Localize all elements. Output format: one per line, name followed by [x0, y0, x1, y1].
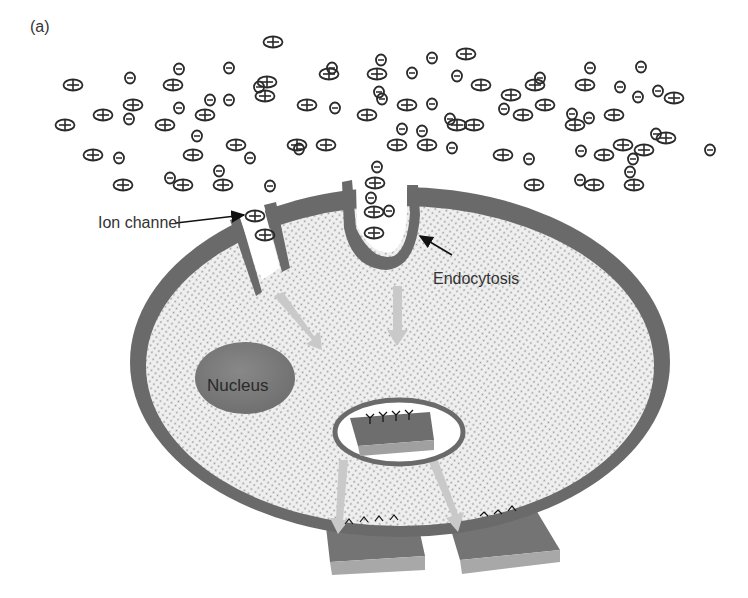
- endocytosis-label: Endocytosis: [433, 270, 519, 288]
- negative-ion: [584, 113, 594, 124]
- nucleus-label: Nucleus: [207, 376, 268, 396]
- positive-ion: [635, 145, 654, 156]
- negative-ion: [124, 114, 134, 125]
- negative-ion: [625, 167, 635, 178]
- negative-ion: [524, 154, 534, 165]
- negative-ion: [417, 126, 427, 137]
- negative-ion: [452, 71, 462, 82]
- positive-ion: [366, 178, 385, 189]
- negative-ion: [615, 82, 625, 93]
- positive-ion: [457, 49, 476, 60]
- negative-ion: [372, 162, 382, 173]
- negative-ion: [174, 64, 184, 75]
- negative-ion: [427, 99, 437, 110]
- positive-ion: [174, 180, 193, 191]
- negative-ion: [427, 53, 437, 64]
- negative-ion: [576, 146, 586, 157]
- negative-ion: [224, 63, 234, 74]
- ion-channel-label: Ion channel: [98, 214, 181, 232]
- negative-ion: [653, 86, 663, 97]
- negative-ion: [636, 62, 646, 73]
- negative-ion: [585, 63, 595, 74]
- positive-ion: [368, 69, 387, 80]
- negative-ion: [245, 153, 255, 164]
- negative-ion: [224, 95, 234, 106]
- negative-ion: [114, 153, 124, 164]
- cell-uptake-diagram: (a) Ion channel Endocytosis Nucleus: [0, 0, 748, 598]
- positive-ion: [502, 90, 521, 101]
- negative-ion: [567, 109, 577, 120]
- negative-ion: [407, 68, 417, 79]
- negative-ion: [205, 95, 215, 106]
- vesicle: [335, 400, 463, 464]
- negative-ion: [628, 154, 638, 165]
- positive-ion: [514, 110, 533, 121]
- positive-ion: [317, 140, 336, 151]
- positive-ion: [114, 180, 133, 191]
- positive-ion: [494, 150, 513, 161]
- negative-ion: [575, 175, 585, 186]
- diagram-canvas: [0, 0, 748, 598]
- positive-ion: [585, 180, 604, 191]
- positive-ion: [398, 100, 417, 111]
- positive-ion: [184, 150, 203, 161]
- positive-ion: [358, 110, 377, 121]
- positive-ion: [64, 80, 83, 91]
- negative-ion: [174, 103, 184, 114]
- positive-ion: [576, 80, 595, 91]
- positive-ion: [614, 140, 633, 151]
- positive-ion: [525, 180, 544, 191]
- positive-ion: [56, 120, 75, 131]
- positive-ion: [227, 140, 246, 151]
- positive-ion: [388, 140, 407, 151]
- positive-ion: [595, 150, 614, 161]
- positive-ion: [156, 120, 175, 131]
- positive-ion: [196, 110, 215, 121]
- positive-ion: [94, 110, 113, 121]
- positive-ion: [164, 80, 183, 91]
- positive-ion: [665, 93, 684, 104]
- positive-ion: [625, 180, 644, 191]
- positive-ion: [256, 91, 275, 102]
- negative-ion: [330, 103, 340, 114]
- negative-ion: [165, 173, 175, 184]
- negative-ion: [265, 181, 275, 192]
- positive-ion: [605, 110, 624, 121]
- negative-ion: [376, 55, 386, 66]
- negative-ion: [447, 143, 457, 154]
- positive-ion: [264, 37, 283, 48]
- negative-ion: [125, 73, 135, 84]
- positive-ion: [536, 100, 555, 111]
- negative-ion: [705, 145, 715, 156]
- negative-ion: [633, 92, 643, 103]
- positive-ion: [526, 80, 545, 91]
- positive-ion: [566, 120, 585, 131]
- positive-ion: [214, 180, 233, 191]
- positive-ion: [472, 80, 491, 91]
- positive-ion: [84, 150, 103, 161]
- negative-ion: [192, 131, 202, 142]
- positive-ion: [418, 140, 437, 151]
- negative-ion: [397, 124, 407, 135]
- positive-ion: [124, 100, 143, 111]
- positive-ion: [298, 100, 317, 111]
- negative-ion: [214, 166, 224, 177]
- negative-ion: [499, 104, 509, 115]
- panel-label: (a): [30, 18, 50, 36]
